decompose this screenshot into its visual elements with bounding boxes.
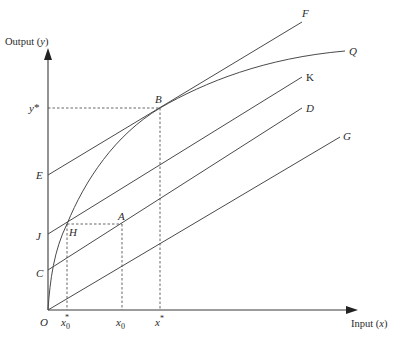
curve-Q (48, 51, 345, 310)
lines (48, 22, 340, 310)
x-axis-arrow-icon (346, 306, 358, 314)
point-A-label: A (117, 210, 125, 222)
line-JK (48, 77, 302, 234)
origin-label: O (40, 316, 48, 328)
D-label: D (305, 102, 314, 114)
F-label: F (301, 7, 309, 19)
point-H-label: H (68, 226, 78, 238)
x-axis-title: Input (x) (351, 318, 388, 330)
C-label: C (36, 267, 44, 279)
point-B-label: B (155, 93, 162, 105)
x0-label: x0 (115, 316, 125, 331)
line-CD (48, 108, 302, 270)
x0star-label: x0* (60, 313, 70, 331)
K-label: K (306, 71, 314, 83)
J-label: J (36, 230, 42, 242)
ystar-label: y* (28, 101, 39, 114)
line-OG (48, 137, 340, 310)
y-axis-arrow-icon (44, 48, 52, 60)
Q-label: Q (349, 45, 357, 57)
line-EF (48, 22, 302, 175)
G-label: G (343, 130, 351, 142)
production-function-diagram: Output (y) Input (x) y* E J C O x0* x0 x… (0, 0, 398, 339)
xstar-label: x* (154, 314, 164, 328)
y-axis-title: Output (y) (5, 36, 49, 48)
axes (44, 48, 358, 314)
E-label: E (35, 169, 43, 181)
